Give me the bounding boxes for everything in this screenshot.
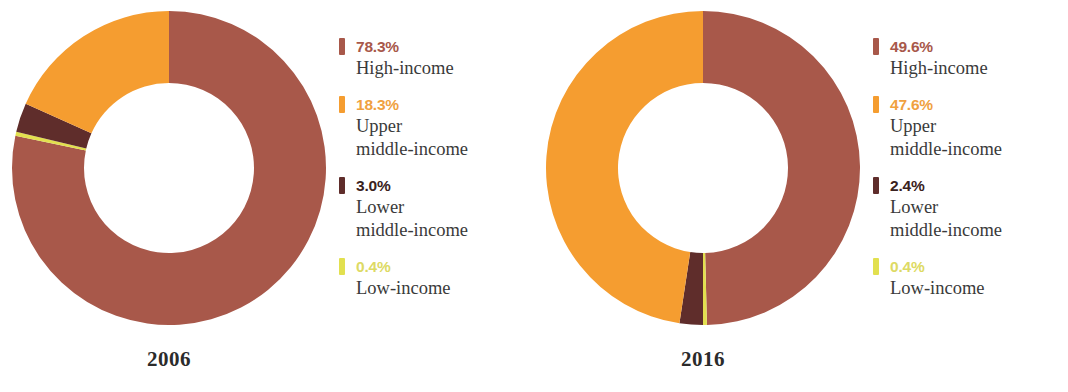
- legend-percent: 78.3%: [356, 38, 399, 55]
- legend-label-line: Lower: [890, 196, 1053, 219]
- legend-swatch-icon: [873, 258, 879, 275]
- donut-segment[interactable]: [703, 11, 860, 325]
- legend-swatch-icon: [339, 38, 345, 55]
- legend-item-lower-middle-income[interactable]: 2.4% Lower middle-income: [873, 175, 1053, 242]
- legend-label-line: High-income: [356, 57, 519, 80]
- legend-percent: 18.3%: [356, 96, 399, 113]
- legend-label-line: middle-income: [356, 219, 519, 242]
- legend-label: Lower middle-income: [890, 196, 1053, 242]
- legend-percent: 0.4%: [356, 258, 391, 275]
- legend-swatch-icon: [339, 177, 345, 194]
- donut-chart-2016: [545, 10, 861, 326]
- legend-head: 2.4%: [873, 175, 1053, 195]
- legend-2016: 49.6% High-income 47.6% Upper middle-inc…: [873, 36, 1053, 314]
- legend-label-line: Upper: [356, 115, 519, 138]
- donut-chart-2006: [11, 10, 327, 326]
- legend-label-line: middle-income: [356, 138, 519, 161]
- donut-segment[interactable]: [546, 11, 703, 323]
- legend-head: 0.4%: [339, 256, 519, 276]
- legend-swatch-icon: [873, 177, 879, 194]
- chart-panel-2016: 2016 49.6% High-income 47.6% Upper m: [534, 0, 1068, 392]
- legend-label: Upper middle-income: [890, 115, 1053, 161]
- chart-panel-2006: 2006 78.3% High-income 18.3% Upper m: [0, 0, 534, 392]
- legend-head: 0.4%: [873, 256, 1053, 276]
- legend-percent: 49.6%: [890, 38, 933, 55]
- donut-svg-2016: [545, 10, 861, 326]
- legend-label-line: Low-income: [890, 277, 1053, 300]
- legend-percent: 47.6%: [890, 96, 933, 113]
- legend-label: Low-income: [356, 277, 519, 300]
- legend-swatch-icon: [339, 96, 345, 113]
- legend-head: 18.3%: [339, 94, 519, 114]
- legend-head: 49.6%: [873, 36, 1053, 56]
- legend-item-low-income[interactable]: 0.4% Low-income: [339, 256, 519, 300]
- legend-item-low-income[interactable]: 0.4% Low-income: [873, 256, 1053, 300]
- legend-percent: 0.4%: [890, 258, 925, 275]
- legend-percent: 2.4%: [890, 177, 925, 194]
- legend-label-line: Upper: [890, 115, 1053, 138]
- legend-2006: 78.3% High-income 18.3% Upper middle-inc…: [339, 36, 519, 314]
- legend-item-high-income[interactable]: 78.3% High-income: [339, 36, 519, 80]
- legend-label: Low-income: [890, 277, 1053, 300]
- legend-head: 3.0%: [339, 175, 519, 195]
- legend-swatch-icon: [339, 258, 345, 275]
- legend-swatch-icon: [873, 96, 879, 113]
- chart-page: 2006 78.3% High-income 18.3% Upper m: [0, 0, 1068, 392]
- legend-item-upper-middle-income[interactable]: 47.6% Upper middle-income: [873, 94, 1053, 161]
- legend-label: Upper middle-income: [356, 115, 519, 161]
- legend-label-line: High-income: [890, 57, 1053, 80]
- legend-label-line: Lower: [356, 196, 519, 219]
- year-label-2006: 2006: [11, 347, 327, 372]
- legend-label-line: Low-income: [356, 277, 519, 300]
- legend-head: 78.3%: [339, 36, 519, 56]
- legend-percent: 3.0%: [356, 177, 391, 194]
- legend-label-line: middle-income: [890, 219, 1053, 242]
- legend-label: Lower middle-income: [356, 196, 519, 242]
- year-label-2016: 2016: [545, 347, 861, 372]
- legend-label: High-income: [356, 57, 519, 80]
- legend-label-line: middle-income: [890, 138, 1053, 161]
- legend-item-upper-middle-income[interactable]: 18.3% Upper middle-income: [339, 94, 519, 161]
- donut-svg-2006: [11, 10, 327, 326]
- legend-swatch-icon: [873, 38, 879, 55]
- legend-label: High-income: [890, 57, 1053, 80]
- legend-item-high-income[interactable]: 49.6% High-income: [873, 36, 1053, 80]
- legend-head: 47.6%: [873, 94, 1053, 114]
- legend-item-lower-middle-income[interactable]: 3.0% Lower middle-income: [339, 175, 519, 242]
